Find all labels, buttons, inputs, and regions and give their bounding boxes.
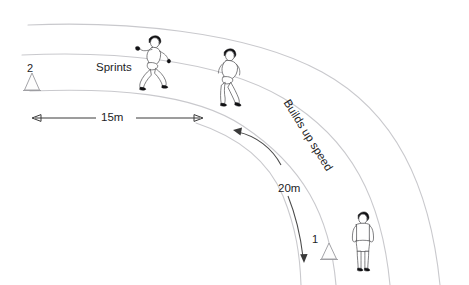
runner-left-front-leg [155,69,166,86]
cone-1 [320,243,338,260]
lane-line-1 [196,123,301,285]
standing-left-leg [357,252,361,269]
cone-2 [23,73,41,91]
runner-right-torso [222,60,238,78]
sprinting-runner-left [136,36,171,90]
sprints-label: Sprints [96,62,132,74]
runner-left-head [150,38,159,48]
standing-head [359,214,367,224]
runner-right-right-leg [228,83,239,104]
track-diagram-canvas: Sprints 15m 20m 2 1 Builds up speed [0,0,469,285]
cone-2-triangle [25,73,40,90]
runner-right-left-shoe [221,103,227,106]
dimension-20m-lower-curve [288,196,303,257]
distance-15m-label: 15m [101,112,123,124]
standing-right-shoe [364,268,370,271]
runner-left-rear-leg [140,70,151,88]
standing-athlete [352,212,373,271]
cone-1-label: 1 [312,234,318,245]
standing-right-leg [365,252,369,269]
runner-left-rear-shoe [140,87,146,90]
runner-left-front-shoe [162,85,168,88]
runner-left-back-hand [167,59,171,63]
dimension-20m-upper-arrowhead [233,128,242,136]
cone-2-label: 2 [27,63,33,74]
standing-right-arm [370,226,374,242]
runner-left-back-arm [160,51,169,60]
standing-left-arm [352,226,356,242]
cone-1-triangle [322,243,337,259]
runner-right-right-shoe [235,102,241,106]
lane-line-3 [22,54,390,285]
diagram-svg [0,0,469,285]
runner-right-left-leg [221,83,226,104]
distance-20m-label: 20m [278,183,300,195]
runner-right-head [226,51,235,61]
dimension-20m-lower-arrowhead [300,254,307,263]
standing-shorts [356,240,369,251]
standing-torso [356,223,371,241]
standing-left-shoe [357,268,363,271]
runner-left-front-hand [136,46,140,50]
